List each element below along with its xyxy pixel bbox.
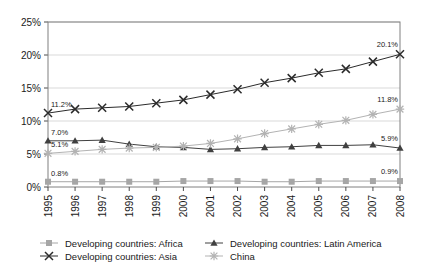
data-point-square <box>262 179 268 185</box>
y-axis-tick-label: 0% <box>27 182 42 193</box>
data-point-square <box>397 178 403 184</box>
series-developing-countries-africa <box>45 178 403 185</box>
legend-item[interactable]: China <box>205 251 256 262</box>
legend-item[interactable]: Developing countries: Africa <box>40 238 183 249</box>
series-developing-countries-asia <box>44 50 404 117</box>
end-value-annotation: 20.1% <box>377 40 399 49</box>
data-point-asterisk <box>369 110 377 118</box>
data-point-asterisk <box>315 120 323 128</box>
data-point-asterisk <box>210 252 218 260</box>
y-axis-tick-label: 25% <box>21 17 41 28</box>
x-axis-year-label: 2001 <box>205 195 216 218</box>
data-point-asterisk <box>260 129 268 137</box>
data-point-asterisk <box>98 145 106 153</box>
data-point-asterisk <box>396 105 404 113</box>
series-china <box>44 105 404 158</box>
x-axis-year-label: 1996 <box>70 195 81 218</box>
x-axis-year-label: 2000 <box>178 195 189 218</box>
data-point-asterisk <box>342 116 350 124</box>
legend-label: China <box>230 251 256 262</box>
data-point-square <box>45 179 51 185</box>
data-point-square <box>289 179 295 185</box>
chart-page: 0%5%10%15%20%25%199519961997199819992000… <box>0 0 425 275</box>
data-point-square <box>72 179 78 185</box>
data-point-asterisk <box>152 143 160 151</box>
data-point-asterisk <box>44 149 52 157</box>
series-line <box>48 54 400 113</box>
y-axis-tick-label: 20% <box>21 50 41 61</box>
y-axis-tick-label: 15% <box>21 83 41 94</box>
x-axis-year-label: 2004 <box>286 195 297 218</box>
data-point-asterisk <box>287 125 295 133</box>
legend-label: Developing countries: Africa <box>65 238 183 249</box>
x-axis-year-label: 2002 <box>232 195 243 218</box>
data-point-square <box>99 179 105 185</box>
start-value-annotation: 11.2% <box>51 100 72 109</box>
x-axis-year-label: 2006 <box>340 195 351 218</box>
x-axis-year-label: 1998 <box>124 195 135 218</box>
plot-area-border <box>48 22 400 187</box>
x-axis-year-label: 1999 <box>151 195 162 218</box>
data-point-x <box>234 85 242 93</box>
legend-item[interactable]: Developing countries: Latin America <box>205 238 382 249</box>
end-value-annotation: 11.8% <box>377 95 398 104</box>
y-axis-tick-label: 5% <box>27 149 42 160</box>
start-value-annotation: 5.1% <box>51 140 68 149</box>
x-axis-year-label: 1995 <box>43 195 54 218</box>
data-point-square <box>207 178 213 184</box>
data-point-square <box>153 179 159 185</box>
start-value-annotation: 0.8% <box>51 169 68 178</box>
data-point-square <box>46 240 52 246</box>
data-point-asterisk <box>71 147 79 155</box>
y-axis-tick-label: 10% <box>21 116 41 127</box>
legend-label: Developing countries: Latin America <box>230 238 382 249</box>
data-point-asterisk <box>125 144 133 152</box>
data-point-asterisk <box>233 135 241 143</box>
data-point-square <box>316 178 322 184</box>
start-value-annotation: 7.0% <box>51 128 68 137</box>
x-axis-year-label: 1997 <box>97 195 108 218</box>
data-point-asterisk <box>179 142 187 150</box>
data-point-square <box>370 178 376 184</box>
legend-label: Developing countries: Asia <box>65 251 178 262</box>
data-point-x <box>369 58 377 66</box>
data-point-square <box>126 179 132 185</box>
line-chart: 0%5%10%15%20%25%199519961997199819992000… <box>0 0 425 275</box>
data-point-asterisk <box>206 139 214 147</box>
data-point-square <box>235 178 241 184</box>
data-point-x <box>206 91 214 99</box>
data-point-square <box>343 178 349 184</box>
end-value-annotation: 0.9% <box>381 167 398 176</box>
x-axis-year-label: 2007 <box>367 195 378 218</box>
legend-item[interactable]: Developing countries: Asia <box>40 251 178 262</box>
data-point-square <box>180 178 186 184</box>
end-value-annotation: 5.9% <box>381 134 398 143</box>
x-axis-year-label: 2008 <box>395 195 406 218</box>
x-axis-year-label: 2005 <box>313 195 324 218</box>
x-axis-year-label: 2003 <box>259 195 270 218</box>
